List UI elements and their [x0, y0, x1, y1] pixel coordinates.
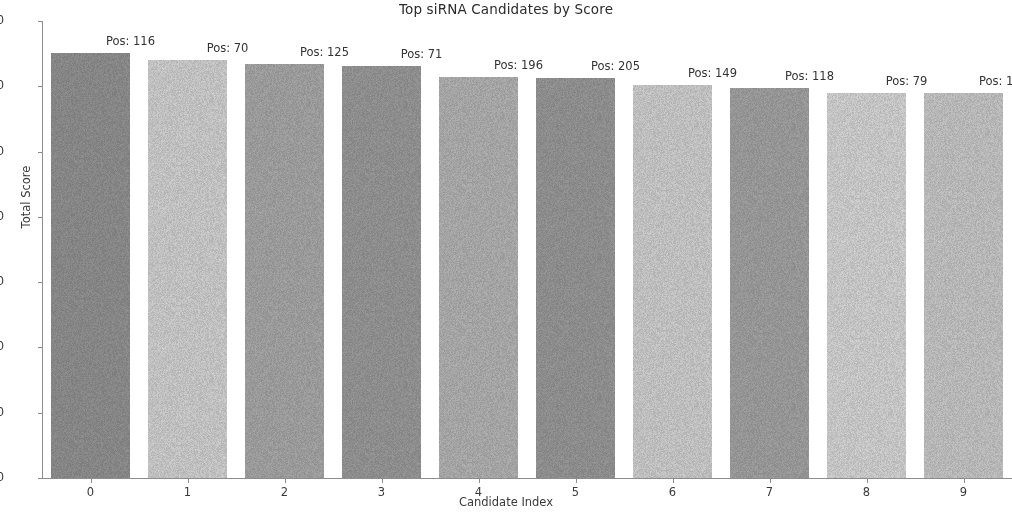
y-tick-label: 0 — [0, 472, 4, 484]
x-tick-label: 5 — [556, 487, 596, 499]
bar — [148, 60, 228, 478]
x-tick-label: 0 — [71, 487, 111, 499]
x-tick-label: 3 — [362, 487, 402, 499]
y-axis-label: Total Score — [19, 137, 33, 257]
x-tick-mark — [479, 479, 480, 483]
bar-texture — [342, 66, 422, 478]
bar — [536, 78, 616, 478]
bar — [245, 64, 325, 478]
x-tick-mark — [576, 479, 577, 483]
x-tick-mark — [867, 479, 868, 483]
y-tick-mark — [38, 152, 42, 153]
x-tick-label: 6 — [653, 487, 693, 499]
x-tick-label: 7 — [750, 487, 790, 499]
bar-texture — [148, 60, 228, 478]
y-tick-label: 20 — [0, 341, 4, 353]
x-tick-label: 4 — [459, 487, 499, 499]
x-tick-label: 2 — [265, 487, 305, 499]
y-tick-mark — [38, 347, 42, 348]
bar-texture — [633, 85, 713, 478]
bar-texture — [245, 64, 325, 478]
y-tick-label: 70 — [0, 15, 4, 27]
bar-texture — [730, 88, 810, 478]
bar — [827, 93, 907, 478]
x-tick-mark — [188, 479, 189, 483]
x-tick-mark — [285, 479, 286, 483]
y-tick-mark — [38, 282, 42, 283]
bar-value-label: Pos: 107 — [934, 76, 1012, 88]
bar-texture — [536, 78, 616, 478]
y-tick-label: 50 — [0, 146, 4, 158]
y-tick-mark — [38, 478, 42, 479]
plot-area: 010203040506070 0123456789 Pos: 116Pos: … — [42, 21, 1012, 478]
y-tick-label: 30 — [0, 276, 4, 288]
bar-texture — [924, 93, 1004, 478]
bar — [439, 77, 519, 478]
bar — [51, 53, 131, 478]
x-tick-mark — [964, 479, 965, 483]
y-tick-mark — [38, 21, 42, 22]
bar — [633, 85, 713, 478]
y-tick-mark — [38, 217, 42, 218]
bar-value-label: Pos: 71 — [352, 49, 492, 61]
y-tick-label: 40 — [0, 211, 4, 223]
y-tick-mark — [38, 86, 42, 87]
x-tick-label: 1 — [168, 487, 208, 499]
chart-figure: Top siRNA Candidates by Score Total Scor… — [0, 0, 1012, 515]
x-tick-label: 9 — [944, 487, 984, 499]
bar-texture — [827, 93, 907, 478]
x-tick-mark — [382, 479, 383, 483]
bar-texture — [51, 53, 131, 478]
y-tick-label: 60 — [0, 80, 4, 92]
x-tick-mark — [673, 479, 674, 483]
x-tick-mark — [91, 479, 92, 483]
bar — [924, 93, 1004, 478]
x-tick-label: 8 — [847, 487, 887, 499]
chart-title: Top siRNA Candidates by Score — [0, 1, 1012, 17]
x-tick-mark — [770, 479, 771, 483]
bar — [342, 66, 422, 478]
bar — [730, 88, 810, 478]
bar-texture — [439, 77, 519, 478]
y-axis-spine — [42, 21, 43, 479]
y-tick-label: 10 — [0, 407, 4, 419]
y-tick-mark — [38, 413, 42, 414]
